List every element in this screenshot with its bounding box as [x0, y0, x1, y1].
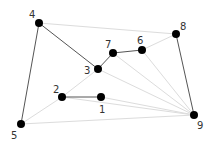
- node-label-9: 9: [197, 120, 203, 131]
- node-7: [109, 49, 117, 57]
- node-label-2: 2: [53, 84, 59, 95]
- node-4: [35, 19, 43, 27]
- node-label-5: 5: [11, 130, 17, 141]
- node-label-7: 7: [105, 39, 111, 50]
- light-edge-4-8: [39, 23, 176, 34]
- node-label-8: 8: [180, 21, 186, 32]
- edge-7-6: [113, 50, 142, 53]
- node-8: [172, 30, 180, 38]
- light-edge-1-9: [101, 97, 194, 115]
- node-label-3: 3: [84, 65, 90, 76]
- light-edge-6-9: [142, 50, 194, 115]
- light-edge-6-8: [142, 34, 176, 50]
- light-edge-5-9: [21, 115, 194, 124]
- node-3: [94, 65, 102, 73]
- graph-svg: 123456789: [0, 0, 215, 144]
- graph-diagram: 123456789: [0, 0, 215, 144]
- light-edge-2-3: [62, 69, 98, 97]
- light-edge-5-2: [21, 97, 62, 124]
- node-label-1: 1: [99, 104, 105, 115]
- edge-4-5: [21, 23, 39, 124]
- node-label-6: 6: [137, 35, 143, 46]
- node-9: [190, 111, 198, 119]
- edge-4-3: [39, 23, 98, 69]
- node-5: [17, 120, 25, 128]
- node-1: [97, 93, 105, 101]
- node-6: [138, 46, 146, 54]
- node-label-4: 4: [29, 9, 35, 20]
